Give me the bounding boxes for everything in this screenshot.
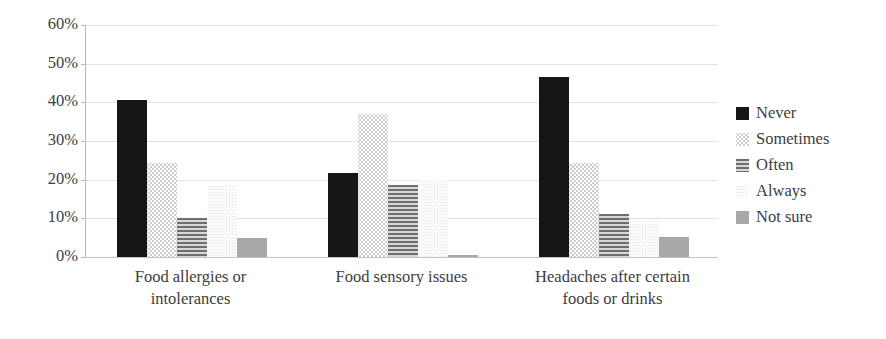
bar-group (508, 25, 719, 257)
legend-swatch-icon (736, 107, 749, 120)
bar-never[interactable] (328, 173, 358, 257)
y-axis-tick-label: 50% (8, 55, 78, 72)
bar-not-sure[interactable] (448, 255, 478, 257)
legend-swatch-icon (736, 211, 749, 224)
x-axis-category-line: foods or drinks (507, 288, 718, 310)
bar-not-sure[interactable] (237, 238, 267, 257)
y-axis-tick-label: 0% (8, 248, 78, 265)
bar-often[interactable] (177, 218, 207, 257)
bar-often[interactable] (388, 185, 418, 257)
bar-not-sure[interactable] (659, 237, 689, 257)
bar-often[interactable] (599, 214, 629, 257)
x-axis-category-line: Food sensory issues (296, 266, 507, 288)
x-axis-category-line: Food allergies or (85, 266, 296, 288)
bar-sometimes[interactable] (358, 114, 388, 257)
x-axis-category-line: intolerances (85, 288, 296, 310)
x-axis-category-label: Food sensory issues (296, 266, 507, 288)
y-axis-tick-label: 40% (8, 93, 78, 110)
legend-label: Always (756, 182, 806, 200)
legend-item-sometimes[interactable]: Sometimes (736, 126, 886, 152)
bar-chart: 0%10%20%30%40%50%60% Food allergies orin… (0, 0, 886, 339)
legend-item-never[interactable]: Never (736, 100, 886, 126)
legend-label: Sometimes (756, 130, 829, 148)
y-axis-tick-label: 10% (8, 209, 78, 226)
plot-area (85, 25, 718, 257)
y-axis-tick (81, 257, 86, 258)
legend-item-often[interactable]: Often (736, 152, 886, 178)
bar-sometimes[interactable] (147, 163, 177, 257)
legend-swatch-icon (736, 133, 749, 146)
legend-label: Never (756, 104, 796, 122)
legend-item-not-sure[interactable]: Not sure (736, 204, 886, 230)
legend-swatch-icon (736, 159, 749, 172)
bar-group (86, 25, 297, 257)
bar-always[interactable] (207, 185, 237, 257)
legend-item-always[interactable]: Always (736, 178, 886, 204)
legend-swatch-icon (736, 185, 749, 198)
legend-label: Not sure (756, 208, 812, 226)
chart-legend: NeverSometimesOftenAlwaysNot sure (736, 100, 886, 230)
y-axis-tick-label: 60% (8, 16, 78, 33)
bar-never[interactable] (539, 77, 569, 257)
bar-always[interactable] (629, 220, 659, 257)
bar-sometimes[interactable] (569, 163, 599, 257)
bar-never[interactable] (117, 100, 147, 257)
legend-label: Often (756, 156, 794, 174)
y-axis-tick-label: 30% (8, 132, 78, 149)
y-axis-tick-labels: 0%10%20%30%40%50%60% (0, 25, 78, 257)
y-axis-tick-label: 20% (8, 171, 78, 188)
bar-always[interactable] (418, 180, 448, 257)
x-axis-category-label: Headaches after certainfoods or drinks (507, 266, 718, 310)
gridline (86, 257, 718, 258)
x-axis-category-labels: Food allergies orintolerancesFood sensor… (85, 266, 718, 336)
x-axis-category-line: Headaches after certain (507, 266, 718, 288)
x-axis-category-label: Food allergies orintolerances (85, 266, 296, 310)
bar-group (297, 25, 508, 257)
